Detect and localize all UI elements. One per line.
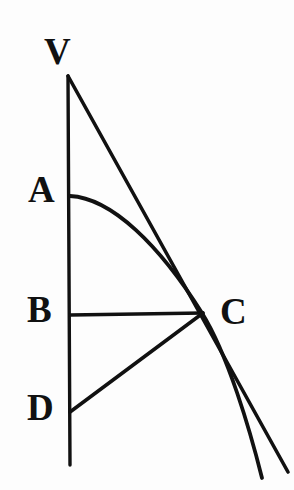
vertex-label-v: V [44, 33, 71, 70]
vertical-axis-line [68, 76, 70, 465]
vertex-label-b: B [27, 291, 52, 328]
geometry-figure: V A B D C [0, 0, 294, 490]
vertex-label-a: A [28, 171, 55, 208]
horizontal-segment-b-to-c [70, 313, 203, 315]
vertex-label-d: D [27, 389, 54, 426]
vertex-label-c: C [220, 293, 247, 330]
